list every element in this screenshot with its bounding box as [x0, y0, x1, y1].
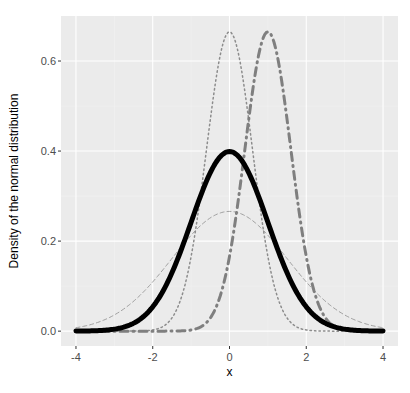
- x-tick-label: -4: [71, 351, 81, 363]
- y-tick-label: 0.0: [41, 325, 56, 337]
- x-axis-title: x: [227, 365, 233, 379]
- y-axis-ticks: 0.00.20.40.6: [41, 55, 61, 337]
- x-tick-label: 4: [380, 351, 386, 363]
- x-tick-label: -2: [148, 351, 158, 363]
- x-tick-label: 2: [303, 351, 309, 363]
- y-axis-title: Density of the normal distribution: [7, 94, 21, 269]
- x-axis-ticks: -4-2024: [71, 346, 386, 363]
- chart: 0.00.20.40.6 -4-2024 x Density of the no…: [0, 0, 410, 393]
- x-tick-label: 0: [226, 351, 232, 363]
- y-tick-label: 0.6: [41, 55, 56, 67]
- y-tick-label: 0.4: [41, 145, 56, 157]
- y-tick-label: 0.2: [41, 235, 56, 247]
